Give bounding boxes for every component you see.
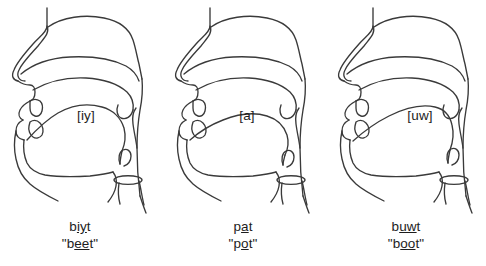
tongue-root-line <box>283 155 285 165</box>
caption-uw: buwt "boot" <box>326 219 486 252</box>
transcription-uw: buwt <box>326 219 486 235</box>
jaw-chin-outline <box>341 131 385 201</box>
word-prefix: "p <box>229 236 242 251</box>
word-uw: "boot" <box>326 236 486 252</box>
skull-nasal-cavity-dome <box>211 16 305 79</box>
floor-of-mouth <box>187 140 276 177</box>
floor-of-mouth <box>350 140 439 177</box>
panel-row: [iy] biyt "beet" <box>0 0 486 266</box>
transcription-underlined: a <box>241 219 249 234</box>
lower-pharynx-front <box>271 172 279 202</box>
word-underlined: o <box>241 236 249 251</box>
skull-nasal-cavity-dome <box>374 16 468 79</box>
vocal-tract-panel-iy: [iy] biyt "beet" <box>0 0 160 266</box>
trachea-front-wall <box>118 183 120 204</box>
trachea-front-wall <box>281 183 283 204</box>
nostril-upper-lip <box>344 81 361 101</box>
word-iy: "beet" <box>0 236 160 252</box>
lower-pharynx-front <box>434 172 442 202</box>
nostril-upper-lip <box>18 81 35 101</box>
floor-of-mouth <box>24 140 113 177</box>
forehead-profile-line <box>176 8 210 81</box>
vocal-tract-figure: [iy] biyt "beet" <box>0 0 486 266</box>
transcription-suffix: t <box>417 219 421 234</box>
transcription-underlined: uw <box>399 219 416 234</box>
word-prefix: "b <box>388 236 401 251</box>
trachea-front-wall <box>444 183 446 204</box>
jaw-chin-outline <box>178 131 222 201</box>
transcription-prefix: p <box>233 219 241 234</box>
forehead-profile-line <box>13 8 47 81</box>
vocal-tract-panel-uw: [uw] buwt "boot" <box>326 0 486 266</box>
forehead-profile-line <box>339 8 373 81</box>
lower-pharynx-front <box>108 172 116 202</box>
word-underlined: oo <box>400 236 415 251</box>
phoneme-label-iy: [iy] <box>0 108 166 123</box>
transcription-underlined: iy <box>77 219 87 234</box>
lower-lip-outline <box>342 120 350 140</box>
caption-iy: biyt "beet" <box>0 219 160 252</box>
lower-lip-outline <box>16 120 24 140</box>
skull-nasal-cavity-dome <box>48 16 142 79</box>
transcription-a: pat <box>163 219 323 235</box>
transcription-suffix: t <box>87 219 91 234</box>
caption-a: pat "pot" <box>163 219 323 252</box>
nostril-upper-lip <box>181 81 198 101</box>
word-suffix: t" <box>415 236 424 251</box>
word-underlined: ee <box>74 236 89 251</box>
word-suffix: t" <box>249 236 258 251</box>
transcription-suffix: t <box>249 219 253 234</box>
transcription-iy: biyt <box>0 219 160 235</box>
vocal-tract-panel-a: [a] pat "pot" <box>163 0 323 266</box>
phoneme-label-a: [a] <box>163 108 327 123</box>
word-prefix: "b <box>62 236 75 251</box>
word-suffix: t" <box>89 236 98 251</box>
phoneme-label-uw: [uw] <box>326 108 486 123</box>
jaw-chin-outline <box>15 131 59 201</box>
transcription-prefix: b <box>69 219 77 234</box>
transcription-prefix: b <box>392 219 400 234</box>
lower-lip-outline <box>179 120 187 140</box>
word-a: "pot" <box>163 236 323 252</box>
